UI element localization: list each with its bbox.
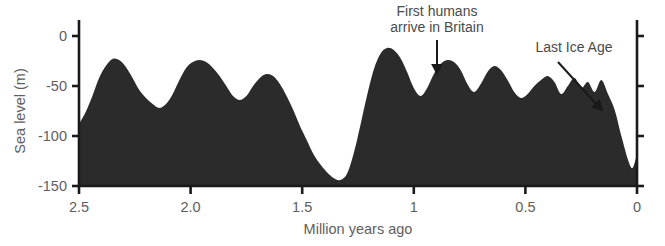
y-tick-label--150: -150: [38, 178, 67, 194]
x-tick-label-2.0: 2.0: [181, 199, 201, 215]
annotation-label-first-humans: First humansarrive in Britain: [390, 3, 483, 35]
x-tick-label-2.5: 2.5: [69, 199, 89, 215]
x-tick-label-0.5: 0.5: [515, 199, 535, 215]
x-axis-title: Million years ago: [304, 221, 413, 237]
chart-svg: 0-50-100-150 2.52.01.510.50 Sea level (m…: [0, 0, 665, 246]
y-tick-label-0: 0: [59, 28, 67, 44]
x-tick-label-0: 0: [633, 199, 641, 215]
x-tick-label-1.5: 1.5: [292, 199, 312, 215]
x-tick-label-1: 1: [410, 199, 418, 215]
y-axis-title: Sea level (m): [12, 68, 28, 153]
y-tick-label--50: -50: [46, 78, 67, 94]
annotation-label-last-ice-age: Last Ice Age: [535, 39, 612, 55]
y-tick-label--100: -100: [38, 128, 67, 144]
sea-level-chart: 0-50-100-150 2.52.01.510.50 Sea level (m…: [0, 0, 665, 246]
